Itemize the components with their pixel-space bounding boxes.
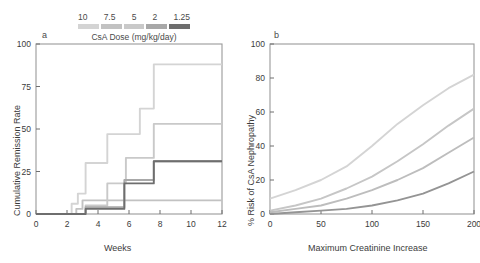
svg-text:50: 50 <box>22 124 32 134</box>
panel-b: b % Risk of CsA Nephropathy Maximum Crea… <box>236 30 480 263</box>
legend-label-1: 7.5 <box>104 12 116 23</box>
legend-label-0: 10 <box>78 12 87 23</box>
series-line-1.25 <box>36 161 222 214</box>
legend-labels: 10 7.5 5 2 1.25 <box>78 12 190 23</box>
svg-text:12: 12 <box>217 219 227 229</box>
legend-label-2: 5 <box>132 12 137 23</box>
svg-text:40: 40 <box>256 141 266 151</box>
legend-swatch-2 <box>124 24 145 29</box>
legend-swatch-0 <box>78 24 99 29</box>
svg-text:4: 4 <box>96 219 101 229</box>
panel-a-x-axis-title: Weeks <box>104 243 131 253</box>
legend-swatch-4 <box>169 24 190 29</box>
svg-text:20: 20 <box>256 175 266 185</box>
legend-swatches <box>78 24 190 29</box>
svg-text:25: 25 <box>22 167 32 177</box>
panel-b-plot: 050100150200020406080100 <box>236 30 480 263</box>
svg-text:0: 0 <box>26 209 31 219</box>
series-line-10 <box>36 64 222 214</box>
svg-text:75: 75 <box>22 82 32 92</box>
figure-root: 10 7.5 5 2 1.25 CsA Dose (mg/kg/day) a C… <box>0 0 480 263</box>
panel-b-x-axis-title: Maximum Creatinine Increase <box>308 243 428 253</box>
svg-text:60: 60 <box>256 107 266 117</box>
svg-text:2: 2 <box>65 219 70 229</box>
legend-label-4: 1.25 <box>173 12 190 23</box>
svg-text:150: 150 <box>416 219 430 229</box>
panel-b-y-axis-title: % Risk of CsA Nephropathy <box>246 115 256 226</box>
svg-text:200: 200 <box>467 219 480 229</box>
svg-text:0: 0 <box>268 219 273 229</box>
svg-text:6: 6 <box>127 219 132 229</box>
panel-a-label: a <box>42 30 47 40</box>
svg-text:0: 0 <box>34 219 39 229</box>
series-line-5 <box>270 138 474 213</box>
series-line-2 <box>36 161 222 214</box>
series-line-10 <box>270 75 474 199</box>
legend: 10 7.5 5 2 1.25 CsA Dose (mg/kg/day) <box>78 12 190 29</box>
svg-text:50: 50 <box>316 219 326 229</box>
svg-text:10: 10 <box>186 219 196 229</box>
legend-label-3: 2 <box>153 12 158 23</box>
svg-text:80: 80 <box>256 73 266 83</box>
svg-text:0: 0 <box>260 209 265 219</box>
panel-b-label: b <box>274 30 279 40</box>
panel-a-y-axis-title: Cumulative Remission Rate <box>12 105 22 216</box>
svg-text:100: 100 <box>365 219 379 229</box>
svg-text:8: 8 <box>158 219 163 229</box>
legend-swatch-1 <box>101 24 122 29</box>
series-line-7.5 <box>270 109 474 211</box>
svg-text:100: 100 <box>17 39 31 49</box>
panel-a-plot: 0246810120255075100 <box>0 30 228 263</box>
panel-a: a Cumulative Remission Rate Weeks 024681… <box>0 30 228 263</box>
legend-swatch-3 <box>146 24 167 29</box>
svg-text:100: 100 <box>251 39 265 49</box>
